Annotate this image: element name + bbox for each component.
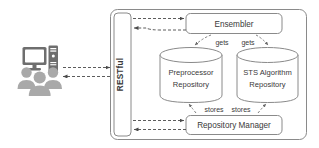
edge-manager-stores-sts — [258, 104, 266, 113]
monitor-icon — [23, 47, 47, 70]
user-group-icon — [18, 67, 63, 96]
node-repository-manager: Repository Manager — [186, 116, 282, 135]
edge-manager-stores-preprocessor — [189, 104, 196, 113]
restful-label: RESTful — [116, 58, 125, 91]
node-preprocessor-repository: Preprocessor Repository — [160, 48, 222, 103]
node-ensembler: Ensembler — [186, 14, 282, 34]
users-with-computer — [18, 46, 63, 97]
stores-label-right: stores — [231, 106, 251, 113]
preprocessor-repository-label-line2: Repository — [173, 80, 209, 89]
restful-gateway: RESTful — [114, 13, 131, 136]
node-sts-algorithm-repository: STS Algorithm Repository — [237, 48, 298, 103]
edge-ensembler-gets-sts — [256, 35, 268, 45]
stores-label-left: stores — [204, 106, 224, 113]
edge-ensembler-gets-preprocessor — [195, 35, 211, 45]
edge-ensembler-to-gateway — [134, 28, 186, 30]
sts-algorithm-repository-label-line2: Repository — [249, 80, 285, 89]
architecture-diagram: RESTful Ensembler Preprocessor Repositor… — [0, 0, 319, 148]
repository-manager-label: Repository Manager — [197, 121, 271, 130]
ensembler-label: Ensembler — [214, 20, 253, 29]
gets-label-right: gets — [241, 39, 255, 47]
preprocessor-repository-label-line1: Preprocessor — [168, 68, 214, 77]
sts-algorithm-repository-label-line1: STS Algorithm — [243, 68, 292, 77]
gets-label-left: gets — [215, 39, 229, 47]
